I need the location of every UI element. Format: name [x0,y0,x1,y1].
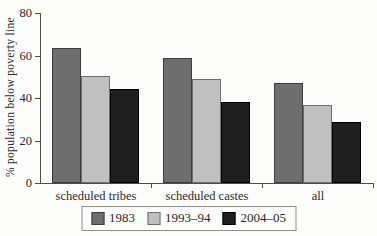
y-tick-20 [35,141,40,142]
category-label-all: all [258,189,377,203]
x-divider-tick-2 [262,183,263,188]
y-tick-label-20: 20 [6,134,32,148]
y-tick-label-60: 60 [6,49,32,63]
legend-swatch-1993-94 [147,212,160,225]
legend-label-2004-05: 2004–05 [241,210,287,226]
x-divider-tick-3 [373,183,374,188]
legend-item-2004-05: 2004–05 [223,210,287,226]
y-tick-label-40: 40 [6,91,32,105]
bar-all-1983 [274,83,303,183]
y-tick-label-0: 0 [6,176,32,190]
x-axis-line [40,183,374,184]
y-tick-label-80: 80 [6,6,32,20]
category-label-scheduled-tribes: scheduled tribes [36,189,156,203]
y-tick-0 [35,183,40,184]
legend-label-1993-94: 1993–94 [165,210,211,226]
bar-all-1993-94 [303,105,332,183]
y-tick-80 [35,13,40,14]
legend-label-1983: 1983 [109,210,135,226]
bar-scheduled-tribes-1993-94 [81,76,110,183]
x-divider-tick-1 [151,183,152,188]
y-tick-40 [35,98,40,99]
poverty-bar-chart-figure: % population below poverty line 1983 199… [0,0,377,236]
category-label-scheduled-castes: scheduled castes [147,189,267,203]
bar-scheduled-castes-2004-05 [221,102,250,183]
y-axis-line [40,13,41,184]
bar-scheduled-tribes-1983 [52,48,81,183]
y-tick-60 [35,56,40,57]
legend-item-1983: 1983 [91,210,135,226]
legend-swatch-2004-05 [223,212,236,225]
bar-scheduled-castes-1993-94 [192,79,221,183]
legend-swatch-1983 [91,212,104,225]
legend: 1983 1993–94 2004–05 [81,206,296,231]
bar-all-2004-05 [332,122,361,183]
legend-item-1993-94: 1993–94 [147,210,211,226]
bar-scheduled-castes-1983 [163,58,192,183]
bar-scheduled-tribes-2004-05 [110,89,139,183]
